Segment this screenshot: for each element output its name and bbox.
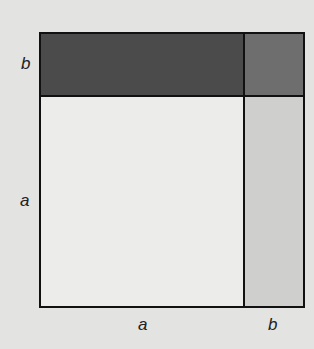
label-left-b: b <box>21 55 30 72</box>
region-ab-top <box>41 34 245 97</box>
label-left-a: a <box>20 192 29 209</box>
region-bb <box>245 34 303 97</box>
region-aa <box>41 97 245 306</box>
region-ab-right <box>245 97 303 306</box>
label-bottom-b: b <box>268 316 277 333</box>
label-bottom-a: a <box>138 316 147 333</box>
square-diagram <box>39 32 305 308</box>
